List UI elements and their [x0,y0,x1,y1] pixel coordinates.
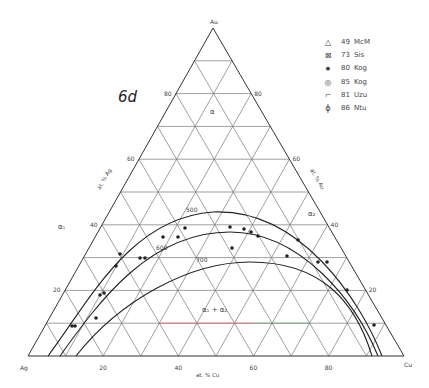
svg-text:Ag: Ag [20,364,28,372]
svg-text:Au: Au [210,18,218,25]
svg-text:α₂: α₂ [308,210,316,218]
svg-text:20: 20 [53,286,61,293]
miscibility-gap-curves [48,212,382,356]
legend: △49McM ⊠73Sis ●80Kog ◎85Kog ⌐81Uzu ϕ86Nt… [322,36,370,115]
svg-text:60: 60 [292,155,300,162]
svg-text:α₁ + α₂: α₁ + α₂ [202,306,227,314]
svg-text:40: 40 [174,364,182,371]
ternary-diagram: AuAgCu204060808060402020406080at. % Cuat… [0,0,429,388]
dot-marker-icon: ● [322,62,334,75]
svg-text:80: 80 [164,90,172,97]
svg-text:at. % Ag: at. % Ag [96,167,114,191]
legend-item: ⊠73Sis [322,49,370,62]
svg-text:Cu: Cu [404,361,412,368]
phi-marker-icon: ϕ [322,102,334,115]
svg-text:60: 60 [250,364,258,371]
legend-item: ◎85Kog [322,76,370,89]
svg-text:600: 600 [156,244,168,251]
svg-text:20: 20 [99,364,107,371]
svg-text:80: 80 [254,90,262,97]
svg-text:40: 40 [90,221,98,228]
svg-text:at. % Cu: at. % Cu [196,372,219,378]
square-marker-icon: ⊠ [322,49,334,62]
svg-text:at. % Au: at. % Au [309,168,326,191]
svg-text:20: 20 [369,286,377,293]
legend-item: ϕ86Ntu [322,102,370,115]
svg-text:α₁: α₁ [58,223,66,231]
figure-label: 6d [118,88,137,106]
legend-item: ⌐81Uzu [322,89,370,102]
svg-text:500: 500 [186,206,198,213]
svg-text:80: 80 [325,364,333,371]
legend-item: △49McM [322,36,370,49]
legend-item: ●80Kog [322,62,370,75]
svg-text:60: 60 [127,155,135,162]
flag-marker-icon: ⌐ [322,89,334,102]
svg-text:α: α [210,108,215,116]
circle-marker-icon: ◎ [322,76,334,89]
svg-text:700: 700 [196,256,208,263]
svg-text:40: 40 [331,221,339,228]
triangle-marker-icon: △ [322,36,334,49]
